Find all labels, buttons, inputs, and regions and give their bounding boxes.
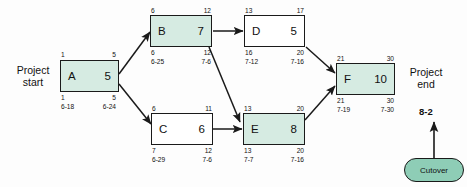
node-f-duration: 10 (374, 73, 387, 85)
node-a-early-finish: 5 (88, 51, 116, 59)
node-b-late-start: 6 (151, 49, 155, 57)
node-c-finish-date: 7-6 (183, 156, 212, 164)
cutover-label: Cutover (420, 166, 448, 175)
node-f-early-finish: 30 (366, 55, 394, 63)
edge-a-c (119, 84, 151, 124)
node-c-late-finish: 12 (183, 147, 212, 155)
node-a-name: A (68, 70, 76, 82)
project-end-line2: end (399, 78, 453, 90)
cutover-node[interactable]: Cutover (404, 158, 464, 182)
node-d-name: D (252, 25, 260, 37)
node-c-duration: 6 (199, 123, 205, 135)
node-b-name: B (158, 25, 166, 37)
node-e-start-date: 7-7 (244, 156, 254, 164)
node-e-late-start: 13 (244, 147, 251, 155)
node-c-early-finish: 11 (183, 105, 212, 113)
node-f-name: F (344, 73, 351, 85)
project-end-line1: Project (399, 66, 453, 78)
node-a[interactable]: A 5 (60, 60, 119, 92)
node-e[interactable]: E 8 (243, 113, 305, 145)
node-a-early-start: 1 (61, 51, 65, 59)
node-b-late-finish: 12 (182, 49, 211, 57)
node-d-start-date: 7-12 (245, 58, 258, 66)
node-c-late-start: 7 (152, 147, 156, 155)
project-network-diagram: Project start 1 5 A 5 1 6-18 5 6-24 6 12… (0, 0, 467, 187)
node-d-early-start: 13 (245, 7, 252, 15)
node-a-start-date: 6-18 (61, 103, 74, 111)
edge-e-f (305, 86, 335, 120)
edge-layer (0, 0, 467, 187)
node-c[interactable]: C 6 (151, 113, 213, 145)
node-b-finish-date: 7-6 (182, 58, 211, 66)
edge-d-f (306, 47, 335, 73)
node-b-early-start: 6 (151, 7, 155, 15)
project-start-line2: start (8, 76, 58, 88)
edge-a-b (119, 32, 150, 74)
node-b[interactable]: B 7 (150, 15, 212, 47)
node-f-finish-date: 7-30 (366, 106, 394, 114)
node-f-late-finish: 30 (366, 97, 394, 105)
node-d-finish-date: 7-16 (275, 58, 304, 66)
node-e-early-start: 13 (244, 105, 251, 113)
node-f-start-date: 7-19 (337, 106, 350, 114)
project-start-line1: Project (8, 64, 58, 76)
node-a-finish-date: 6-24 (88, 103, 116, 111)
node-b-duration: 7 (198, 25, 204, 37)
node-a-late-finish: 5 (88, 94, 116, 102)
node-e-late-finish: 20 (274, 147, 304, 155)
node-e-duration: 8 (291, 123, 297, 135)
milestone-8-2-label: 8-2 (419, 106, 433, 117)
node-c-name: C (159, 123, 167, 135)
node-b-start-date: 6-25 (151, 58, 164, 66)
node-d-late-finish: 20 (275, 49, 304, 57)
node-d[interactable]: D 5 (244, 15, 305, 47)
project-end-label: Project end (399, 66, 453, 91)
node-d-duration: 5 (291, 25, 297, 37)
node-c-start-date: 6-29 (152, 156, 165, 164)
project-start-label: Project start (8, 64, 58, 89)
node-d-late-start: 16 (245, 49, 252, 57)
edge-b-e (209, 47, 240, 122)
node-d-early-finish: 17 (275, 7, 304, 15)
node-a-late-start: 1 (61, 94, 65, 102)
node-c-early-start: 6 (152, 105, 156, 113)
node-e-early-finish: 20 (274, 105, 304, 113)
node-b-early-finish: 12 (182, 7, 211, 15)
node-a-duration: 5 (105, 70, 111, 82)
node-f-early-start: 21 (337, 55, 344, 63)
node-e-name: E (251, 123, 259, 135)
node-f-late-start: 21 (337, 97, 344, 105)
node-f[interactable]: F 10 (336, 63, 395, 95)
node-e-finish-date: 7-16 (274, 156, 304, 164)
